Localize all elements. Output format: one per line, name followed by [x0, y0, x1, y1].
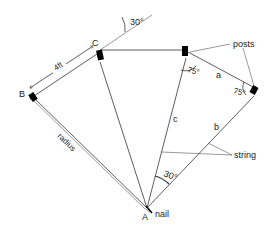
label-posts: posts — [233, 39, 255, 49]
string-line — [161, 152, 232, 155]
label-angle-post-1: 75° — [186, 65, 200, 77]
chord-b-c — [34, 52, 100, 96]
post-c — [96, 49, 104, 60]
post-2 — [182, 46, 188, 56]
angle-arc-top — [122, 17, 125, 32]
fence-chords — [34, 15, 255, 96]
fence-layout-diagram: 4ft radius posts string 30° 75° 75° 30° … — [0, 0, 272, 235]
string-callout-line — [208, 143, 232, 155]
label-radius: radius — [56, 132, 78, 154]
label-nail: nail — [155, 209, 169, 219]
radius-line-to-post-1 — [34, 98, 147, 208]
post-3 — [249, 85, 258, 95]
label-segment-c: c — [173, 114, 178, 124]
label-angle-top: 30° — [130, 17, 144, 27]
posts — [28, 46, 258, 102]
posts-callout-line-2 — [243, 48, 254, 86]
label-point-b: B — [19, 89, 25, 99]
label-point-c: C — [92, 38, 99, 48]
dimension-4ft: 4ft — [30, 46, 93, 88]
extension-line — [100, 15, 152, 50]
label-angle-post-2: 75° — [232, 86, 246, 98]
line-a-to-post-c — [100, 62, 147, 208]
label-point-a: A — [142, 212, 148, 222]
posts-callout-line-1 — [190, 44, 230, 52]
radius-dimension-arrow — [30, 97, 144, 208]
label-segment-a: a — [216, 70, 221, 80]
label-string: string — [234, 150, 256, 160]
line-c — [147, 58, 186, 208]
label-segment-b: b — [214, 122, 219, 132]
